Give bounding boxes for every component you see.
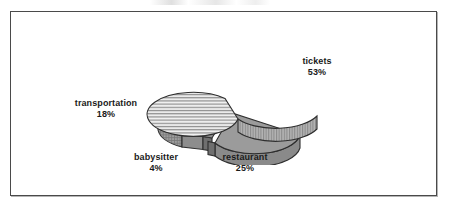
pie-label-transportation: transportation 18%	[51, 98, 161, 120]
chart-page: tickets 53% transportation 18% babysitte…	[0, 0, 450, 209]
pie-label-tickets-name: tickets	[302, 56, 331, 66]
pie-label-restaurant-percent: 25%	[197, 163, 293, 174]
pie-label-transportation-percent: 18%	[51, 109, 161, 120]
pie-label-tickets: tickets 53%	[267, 56, 367, 78]
chart-frame: tickets 53% transportation 18% babysitte…	[10, 11, 437, 196]
pie-label-babysitter-percent: 4%	[108, 163, 204, 174]
pie-label-tickets-percent: 53%	[267, 67, 367, 78]
pie-label-babysitter-name: babysitter	[134, 152, 178, 162]
scan-artifact	[150, 0, 270, 5]
pie-label-restaurant-name: restaurant	[222, 152, 267, 162]
pie-label-restaurant: restaurant 25%	[197, 152, 293, 174]
pie-label-babysitter: babysitter 4%	[108, 152, 204, 174]
pie-label-transportation-name: transportation	[75, 98, 137, 108]
pie-chart-graphic	[146, 70, 336, 165]
